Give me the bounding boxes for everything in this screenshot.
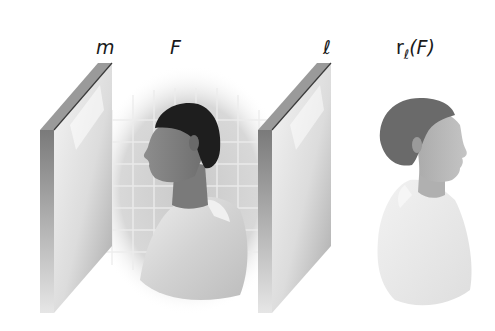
label-figure-F: F	[170, 36, 181, 58]
mirror-m	[40, 63, 112, 313]
label-reflection-rF: rℓ(F)	[396, 36, 435, 58]
label-mirror-l: ℓ	[323, 36, 331, 58]
label-mirror-m: m	[96, 36, 115, 58]
reflected-figure-rF	[378, 98, 472, 305]
reflection-argument: (F)	[409, 36, 435, 58]
reflection-subscript: ℓ	[404, 47, 409, 62]
reflection-prefix: r	[396, 36, 404, 58]
mirror-l	[258, 63, 331, 313]
